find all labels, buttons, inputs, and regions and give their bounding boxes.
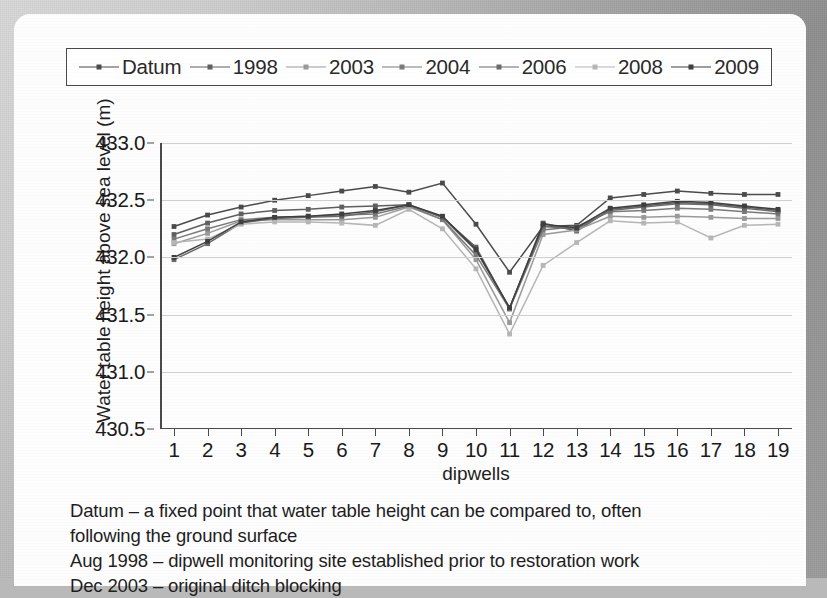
data-point-marker [339, 212, 344, 217]
x-tick-mark [577, 429, 578, 436]
gridline [160, 143, 792, 144]
y-tick-label: 430.5 [95, 417, 145, 441]
x-tick-label: 17 [700, 438, 722, 462]
data-point-marker [239, 220, 244, 225]
x-axis-ticks [160, 429, 792, 438]
x-tick-mark [610, 429, 611, 436]
data-point-marker [272, 220, 277, 225]
x-tick-mark [644, 429, 645, 436]
data-point-marker [474, 222, 479, 227]
y-tick-mark [147, 200, 154, 201]
x-tick-mark [308, 429, 309, 436]
legend-swatch-icon [286, 61, 326, 73]
data-point-marker [306, 207, 311, 212]
x-tick-label: 11 [499, 438, 519, 462]
x-axis-labels: 12345678910111213141516171819 [160, 438, 792, 464]
data-point-marker [742, 204, 747, 209]
legend-label: 2008 [618, 55, 663, 79]
data-point-marker [339, 189, 344, 194]
x-tick-mark [208, 429, 209, 436]
x-tick-mark [711, 429, 712, 436]
x-tick-label: 9 [437, 438, 448, 462]
data-point-marker [474, 247, 479, 252]
gridline [160, 372, 792, 373]
x-tick-label: 2 [202, 438, 213, 462]
data-point-marker [608, 214, 613, 219]
x-tick-label: 18 [733, 438, 755, 462]
x-tick-label: 14 [599, 438, 621, 462]
caption-line-1: Datum – a fixed point that water table h… [70, 498, 790, 523]
x-tick-label: 4 [269, 438, 280, 462]
x-tick-label: 1 [168, 438, 179, 462]
x-tick-mark [241, 429, 242, 436]
legend-item-2006[interactable]: 2006 [479, 55, 567, 79]
gridline [160, 315, 792, 316]
x-tick-mark [275, 429, 276, 436]
legend-item-2009[interactable]: 2009 [671, 55, 759, 79]
x-axis-title: dipwells [160, 463, 792, 485]
x-tick-label: 19 [767, 438, 789, 462]
data-point-marker [641, 202, 646, 207]
legend-item-2008[interactable]: 2008 [575, 55, 663, 79]
legend-swatch-icon [382, 61, 422, 73]
y-tick-label: 431.0 [95, 360, 145, 384]
legend-label: Datum [122, 55, 181, 79]
data-point-marker [440, 226, 445, 231]
data-point-marker [742, 192, 747, 197]
y-tick-label: 432.0 [95, 245, 145, 269]
data-point-marker [776, 216, 781, 221]
x-tick-mark [744, 429, 745, 436]
data-point-marker [306, 220, 311, 225]
data-point-marker [272, 215, 277, 220]
x-tick-mark [543, 429, 544, 436]
data-point-marker [541, 263, 546, 268]
figure-caption: Datum – a fixed point that water table h… [70, 498, 790, 598]
data-point-marker [507, 270, 512, 275]
x-tick-label: 8 [403, 438, 414, 462]
data-point-marker [339, 205, 344, 210]
x-tick-mark [677, 429, 678, 436]
data-point-marker [373, 208, 378, 213]
series-lines [160, 143, 792, 429]
y-tick-mark [147, 257, 154, 258]
data-point-marker [776, 207, 781, 212]
legend-label: 2004 [425, 55, 470, 79]
x-tick-mark [778, 429, 779, 436]
caption-line-4: Dec 2003 – original ditch blocking [70, 573, 790, 598]
data-point-marker [406, 202, 411, 207]
legend-label: 2006 [522, 55, 567, 79]
data-point-marker [574, 225, 579, 230]
x-tick-label: 3 [236, 438, 247, 462]
data-point-marker [474, 266, 479, 271]
x-tick-mark [342, 429, 343, 436]
legend-item-2003[interactable]: 2003 [286, 55, 374, 79]
legend-swatch-icon [671, 61, 711, 73]
gridline [160, 257, 792, 258]
legend-item-1998[interactable]: 1998 [190, 55, 278, 79]
y-tick-label: 432.5 [95, 188, 145, 212]
legend-item-datum[interactable]: Datum [79, 55, 181, 79]
x-tick-label: 10 [465, 438, 487, 462]
legend-swatch-icon [479, 61, 519, 73]
data-point-marker [708, 207, 713, 212]
data-point-marker [541, 222, 546, 227]
x-tick-mark [409, 429, 410, 436]
data-point-marker [675, 189, 680, 194]
legend-swatch-icon [190, 61, 230, 73]
data-point-marker [373, 184, 378, 189]
data-point-marker [776, 222, 781, 227]
y-tick-label: 433.0 [95, 131, 145, 155]
data-point-marker [205, 213, 210, 218]
x-tick-mark [174, 429, 175, 436]
data-point-marker [406, 190, 411, 195]
data-point-marker [675, 214, 680, 219]
chart-legend: Datum199820032004200620082009 [66, 48, 772, 86]
data-point-marker [608, 218, 613, 223]
data-point-marker [440, 181, 445, 186]
data-point-marker [608, 206, 613, 211]
legend-label: 1998 [233, 55, 278, 79]
legend-item-2004[interactable]: 2004 [382, 55, 470, 79]
data-point-marker [172, 232, 177, 237]
legend-label: 2009 [714, 55, 759, 79]
data-point-marker [440, 214, 445, 219]
